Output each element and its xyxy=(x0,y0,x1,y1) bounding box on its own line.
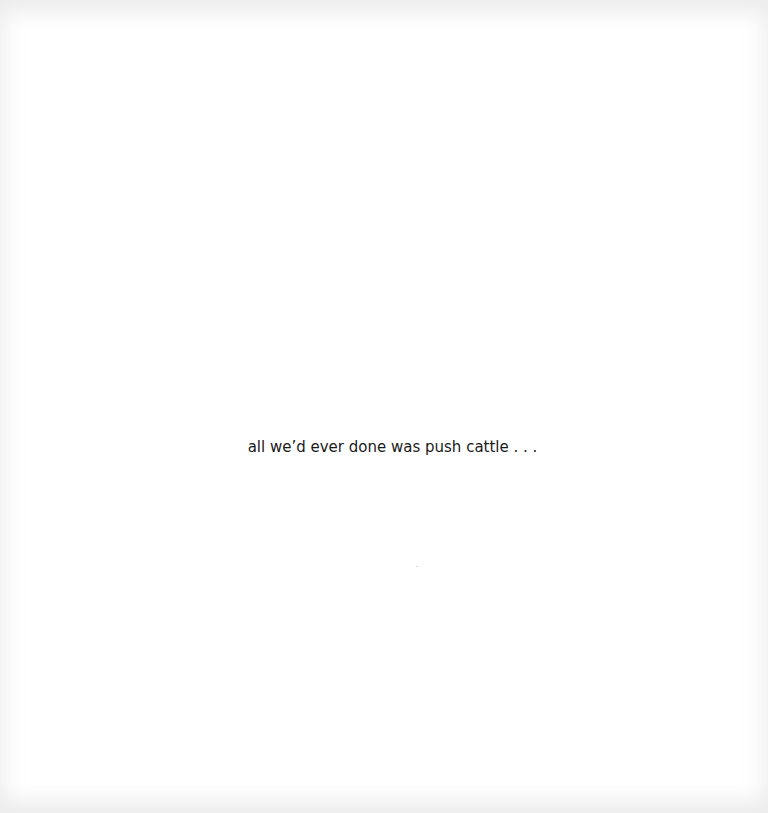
paper-speck xyxy=(416,566,418,567)
page-text: all we’d ever done was push cattle . . . xyxy=(0,438,768,456)
book-page: all we’d ever done was push cattle . . . xyxy=(0,0,768,813)
